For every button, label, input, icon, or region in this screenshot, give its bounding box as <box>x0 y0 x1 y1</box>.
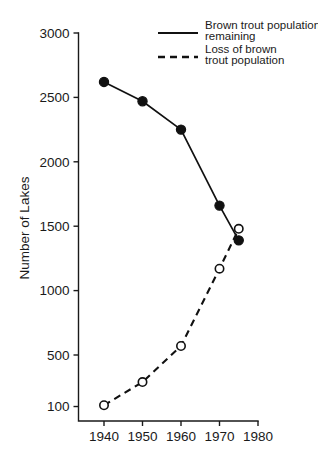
x-tick-label-1940: 1940 <box>89 429 119 444</box>
x-tick-label-1960: 1960 <box>166 429 196 444</box>
legend-label-1-line2: remaining <box>205 30 256 42</box>
chart-legend: Brown trout populationremainingLoss of b… <box>158 19 318 66</box>
data-point-filled <box>99 77 108 86</box>
line-chart: 1005001000150020002500300019401950196019… <box>0 0 318 472</box>
y-tick-label-100: 100 <box>47 399 70 414</box>
series-markers-1 <box>99 77 243 245</box>
y-axis-ticks: 10050010001500200025003000 <box>39 26 78 415</box>
series-markers-2 <box>100 225 243 410</box>
data-point-filled <box>215 201 224 210</box>
chart-container: 1005001000150020002500300019401950196019… <box>0 0 318 472</box>
series-line-1 <box>104 82 239 240</box>
x-tick-label-1950: 1950 <box>127 429 157 444</box>
data-point-open <box>215 265 223 273</box>
x-tick-label-1980: 1980 <box>243 429 273 444</box>
y-tick-label-500: 500 <box>47 348 70 363</box>
x-tick-label-1970: 1970 <box>204 429 234 444</box>
y-tick-label-3000: 3000 <box>39 26 69 41</box>
y-tick-label-1500: 1500 <box>39 219 69 234</box>
data-point-open <box>235 225 243 233</box>
series-line-2 <box>104 229 239 405</box>
data-point-filled <box>138 97 147 106</box>
data-point-open <box>138 378 146 386</box>
data-point-filled <box>176 125 185 134</box>
x-axis-ticks: 19401950196019701980 <box>89 421 273 444</box>
y-axis-title: Number of Lakes <box>17 176 32 279</box>
y-tick-label-2000: 2000 <box>39 155 69 170</box>
y-tick-label-1000: 1000 <box>39 283 69 298</box>
y-tick-label-2500: 2500 <box>39 90 69 105</box>
data-point-open <box>100 401 108 409</box>
data-point-open <box>177 342 185 350</box>
legend-label-2-line2: trout population <box>205 54 284 66</box>
